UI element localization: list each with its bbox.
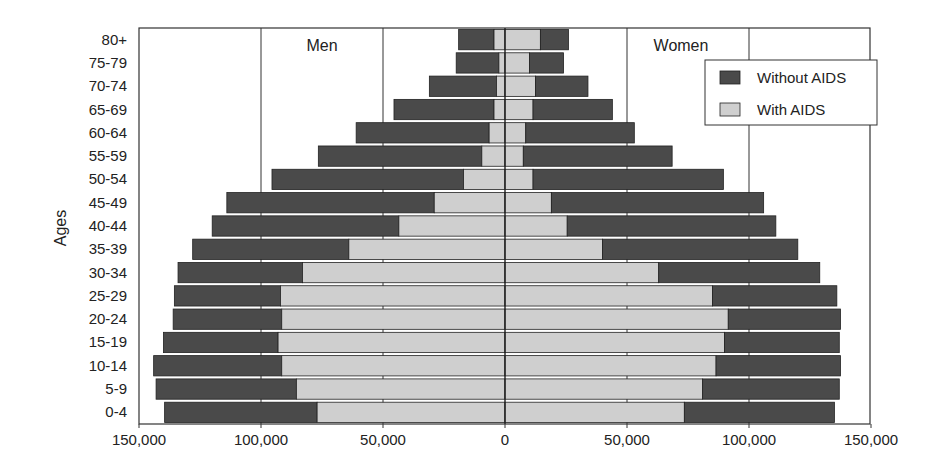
x-tick-label: 100,000 bbox=[234, 431, 288, 448]
age-row-10-14 bbox=[154, 356, 841, 376]
bar-men-with-aids bbox=[482, 146, 505, 166]
bar-men-without-aids bbox=[193, 239, 349, 259]
bar-women-with-aids bbox=[505, 262, 659, 282]
x-tick-label: 50,000 bbox=[360, 431, 406, 448]
legend-label-without-aids: Without AIDS bbox=[757, 69, 846, 86]
bar-men-without-aids bbox=[429, 76, 496, 96]
bar-men-without-aids bbox=[356, 123, 489, 143]
age-label: 35-39 bbox=[89, 240, 127, 257]
bar-women-with-aids bbox=[505, 76, 536, 96]
age-row-20-24 bbox=[173, 309, 840, 329]
bar-women-without-aids bbox=[684, 402, 834, 422]
y-axis-title: Ages bbox=[52, 210, 69, 246]
bar-women-without-aids bbox=[712, 286, 836, 306]
population-pyramid-chart: 80+75-7970-7465-6960-6455-5950-5445-4940… bbox=[0, 0, 948, 476]
bar-men-with-aids bbox=[496, 76, 505, 96]
age-label: 50-54 bbox=[89, 170, 127, 187]
bar-women-without-aids bbox=[533, 99, 612, 119]
age-row-65-69 bbox=[394, 99, 612, 119]
age-labels: 80+75-7970-7465-6960-6455-5950-5445-4940… bbox=[89, 31, 128, 421]
bar-men-without-aids bbox=[459, 30, 494, 50]
bar-men-without-aids bbox=[178, 262, 302, 282]
bar-men-with-aids bbox=[302, 262, 505, 282]
age-row-30-34 bbox=[178, 262, 820, 282]
age-label: 65-69 bbox=[89, 101, 127, 118]
bar-women-without-aids bbox=[703, 379, 840, 399]
x-tick-labels: 150,000100,00050,000050,000100,000150,00… bbox=[112, 424, 898, 448]
bar-women-with-aids bbox=[505, 30, 540, 50]
bar-women-without-aids bbox=[659, 262, 820, 282]
bar-men-with-aids bbox=[317, 402, 505, 422]
legend-swatch-without-aids bbox=[720, 71, 740, 84]
age-row-0-4 bbox=[165, 402, 835, 422]
bar-men-without-aids bbox=[154, 356, 282, 376]
bar-men-without-aids bbox=[212, 216, 399, 236]
age-row-15-19 bbox=[163, 332, 839, 352]
bar-women-with-aids bbox=[505, 53, 529, 73]
bar-men-with-aids bbox=[494, 99, 505, 119]
bar-men-without-aids bbox=[163, 332, 278, 352]
age-label: 80+ bbox=[102, 31, 128, 48]
bar-men-without-aids bbox=[456, 53, 499, 73]
bar-women-with-aids bbox=[505, 309, 728, 329]
age-label: 75-79 bbox=[89, 54, 127, 71]
bar-men-without-aids bbox=[272, 169, 464, 189]
bar-men-without-aids bbox=[156, 379, 296, 399]
x-tick-label: 100,000 bbox=[722, 431, 776, 448]
bar-women-without-aids bbox=[716, 356, 840, 376]
panel-label-men: Men bbox=[306, 37, 337, 54]
bar-women-without-aids bbox=[728, 309, 840, 329]
bar-men-with-aids bbox=[282, 356, 505, 376]
age-label: 0-4 bbox=[105, 403, 127, 420]
age-row-70-74 bbox=[429, 76, 588, 96]
bar-men-with-aids bbox=[489, 123, 505, 143]
x-tick-label: 0 bbox=[501, 431, 509, 448]
bar-women-with-aids bbox=[505, 99, 533, 119]
age-row-75-79 bbox=[456, 53, 563, 73]
age-label: 20-24 bbox=[89, 310, 127, 327]
bar-women-with-aids bbox=[505, 332, 725, 352]
legend-label-with-aids: With AIDS bbox=[757, 101, 825, 118]
bar-women-without-aids bbox=[551, 193, 763, 213]
bar-women-with-aids bbox=[505, 216, 567, 236]
bar-men-without-aids bbox=[174, 286, 280, 306]
bar-women-with-aids bbox=[505, 146, 523, 166]
bar-men-without-aids bbox=[165, 402, 318, 422]
x-tick-label: 150,000 bbox=[844, 431, 898, 448]
legend: Without AIDS With AIDS bbox=[705, 60, 877, 125]
bar-women-with-aids bbox=[505, 286, 712, 306]
bar-men-with-aids bbox=[282, 309, 505, 329]
age-label: 25-29 bbox=[89, 287, 127, 304]
age-row-55-59 bbox=[318, 146, 672, 166]
bar-women-without-aids bbox=[540, 30, 568, 50]
x-tick-label: 50,000 bbox=[604, 431, 650, 448]
bar-women-without-aids bbox=[603, 239, 798, 259]
bar-women-with-aids bbox=[505, 169, 533, 189]
age-label: 15-19 bbox=[89, 333, 127, 350]
bar-men-with-aids bbox=[464, 169, 505, 189]
age-label: 55-59 bbox=[89, 147, 127, 164]
age-row-80+ bbox=[459, 30, 569, 50]
bar-women-without-aids bbox=[529, 53, 563, 73]
bar-women-without-aids bbox=[725, 332, 840, 352]
age-row-45-49 bbox=[227, 193, 764, 213]
bar-women-with-aids bbox=[505, 379, 703, 399]
panel-label-women: Women bbox=[654, 37, 709, 54]
bar-men-with-aids bbox=[296, 379, 505, 399]
bar-women-with-aids bbox=[505, 356, 716, 376]
bar-men-with-aids bbox=[349, 239, 505, 259]
age-row-50-54 bbox=[272, 169, 723, 189]
bar-men-with-aids bbox=[399, 216, 505, 236]
bar-women-without-aids bbox=[526, 123, 635, 143]
age-label: 30-34 bbox=[89, 264, 127, 281]
bar-men-without-aids bbox=[227, 193, 434, 213]
bar-men-with-aids bbox=[278, 332, 505, 352]
bar-women-with-aids bbox=[505, 193, 551, 213]
age-row-60-64 bbox=[356, 123, 634, 143]
bar-women-with-aids bbox=[505, 239, 603, 259]
age-label: 60-64 bbox=[89, 124, 127, 141]
bar-men-with-aids bbox=[494, 30, 505, 50]
age-label: 5-9 bbox=[105, 380, 127, 397]
age-label: 45-49 bbox=[89, 194, 127, 211]
bar-women-without-aids bbox=[536, 76, 588, 96]
